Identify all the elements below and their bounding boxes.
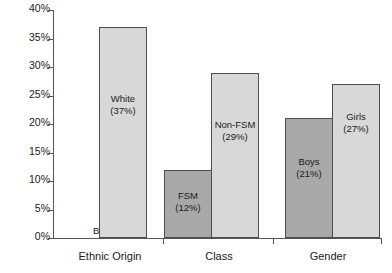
y-axis-tick-mark-5 — [48, 210, 53, 211]
x-axis-end-tick — [381, 239, 382, 244]
bar-chart: 0% 5% 10% 15% 20% 25% 30% 35% 40% — [0, 0, 392, 273]
bar-label-girls-name: Girls — [346, 111, 366, 122]
bar-label-fsm-value: (12%) — [165, 202, 211, 214]
y-axis-tick-mark-20 — [48, 124, 53, 125]
y-axis-tick-label-20: 20% — [29, 117, 50, 128]
bar-label-white-value: (37%) — [100, 105, 146, 117]
plot-area: Black (0%) White (37%) FSM (12%) Non-FSM… — [54, 10, 382, 238]
bar-girls: Girls (27%) — [332, 84, 380, 238]
bar-label-boys-name: Boys — [298, 156, 319, 167]
y-axis-tick-mark-35 — [48, 39, 53, 40]
bar-label-non-fsm-name: Non-FSM — [215, 119, 256, 130]
bar-boys: Boys (21%) — [285, 118, 333, 238]
x-axis-group-separator-1 — [163, 239, 164, 244]
y-axis-tick-label-35: 35% — [29, 32, 50, 43]
y-axis-tick-label-40: 40% — [29, 3, 50, 14]
bar-label-white: White (37%) — [100, 93, 146, 117]
y-axis-tick-label-5: 5% — [35, 203, 50, 214]
y-axis-tick-mark-10 — [48, 181, 53, 182]
bar-label-girls: Girls (27%) — [333, 111, 379, 135]
x-axis-group-label-ethnic-origin: Ethnic Origin — [56, 250, 164, 263]
bar-label-fsm: FSM (12%) — [165, 190, 211, 214]
x-axis-group-label-gender: Gender — [274, 250, 382, 263]
bar-white: White (37%) — [99, 27, 147, 238]
y-axis-tick-mark-15 — [48, 153, 53, 154]
y-axis-tick-mark-40 — [48, 10, 53, 11]
y-axis-tick-label-25: 25% — [29, 89, 50, 100]
bar-label-non-fsm-value: (29%) — [212, 131, 258, 143]
y-axis-tick-label-30: 30% — [29, 60, 50, 71]
x-axis-line — [53, 238, 382, 239]
y-axis-tick-mark-30 — [48, 67, 53, 68]
bar-label-non-fsm: Non-FSM (29%) — [212, 119, 258, 143]
bar-label-fsm-name: FSM — [178, 190, 198, 201]
bar-non-fsm: Non-FSM (29%) — [211, 73, 259, 238]
x-axis-group-separator-2 — [273, 239, 274, 244]
x-axis-group-label-class: Class — [164, 250, 274, 263]
y-axis-tick-label-10: 10% — [29, 174, 50, 185]
bar-label-girls-value: (27%) — [333, 123, 379, 135]
bar-label-white-name: White — [111, 93, 135, 104]
bar-label-boys: Boys (21%) — [286, 156, 332, 180]
bar-fsm: FSM (12%) — [164, 170, 212, 238]
bar-label-boys-value: (21%) — [286, 168, 332, 180]
y-axis-tick-label-0: 0% — [35, 231, 50, 242]
y-axis-tick-mark-25 — [48, 96, 53, 97]
y-axis-tick-label-15: 15% — [29, 146, 50, 157]
